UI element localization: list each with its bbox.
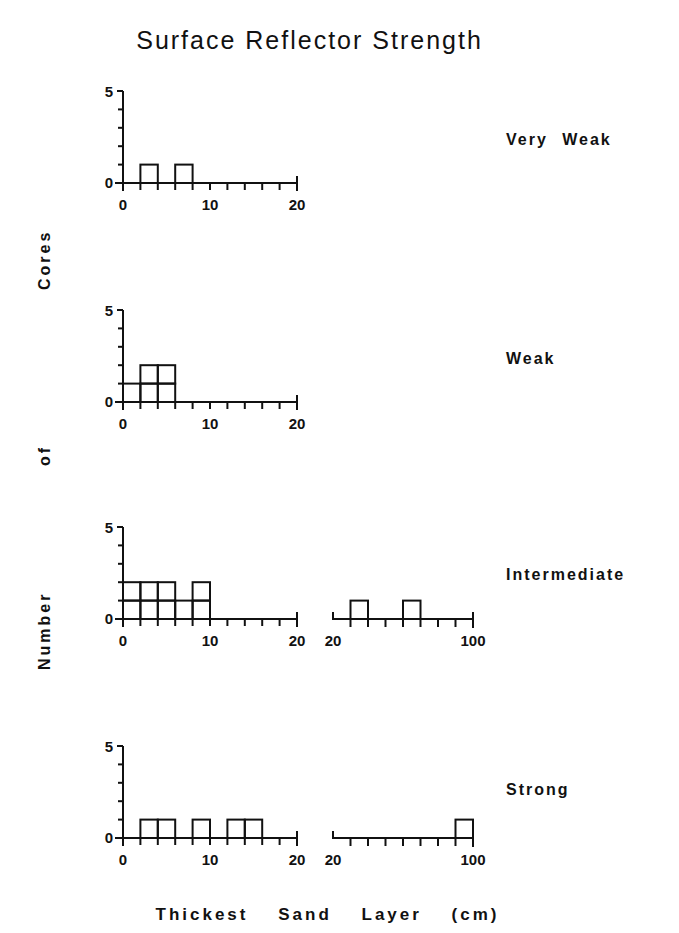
x-tick-label-0: 0 xyxy=(119,851,127,868)
histogram-bar-unit xyxy=(403,601,421,619)
y-tick-label-0: 0 xyxy=(105,393,113,410)
x-tick-label-10: 10 xyxy=(202,415,219,432)
x-tick-label-10: 10 xyxy=(202,851,219,868)
x-tick-label-20: 20 xyxy=(289,851,306,868)
x-tick-label-0: 0 xyxy=(119,415,127,432)
histogram-bar-unit xyxy=(140,365,157,383)
y-tick-label-5: 5 xyxy=(105,519,113,536)
histogram-bar-unit xyxy=(456,820,474,838)
y-tick-label-5: 5 xyxy=(105,302,113,319)
y-tick-label-5: 5 xyxy=(105,83,113,100)
x-tick-label-0: 0 xyxy=(119,196,127,213)
histogram-bar-unit xyxy=(175,601,192,619)
y-tick-label-0: 0 xyxy=(105,829,113,846)
histogram-bar-unit xyxy=(193,820,210,838)
histogram-bar-unit xyxy=(140,601,157,619)
histogram-bar-unit xyxy=(123,582,140,600)
histogram-bar-unit xyxy=(351,601,369,619)
x-tick-label-100: 100 xyxy=(460,632,485,649)
histogram-bar-unit xyxy=(193,582,210,600)
x-tick-label-0: 0 xyxy=(119,632,127,649)
x-tick-label-100: 100 xyxy=(460,851,485,868)
histogram-bar-unit xyxy=(193,601,210,619)
x-tick-label-20: 20 xyxy=(325,851,342,868)
histogram-bar-unit xyxy=(158,820,175,838)
histogram-bar-unit xyxy=(140,582,157,600)
histogram-bar-unit xyxy=(123,384,140,402)
y-tick-label-5: 5 xyxy=(105,738,113,755)
histogram-bar-unit xyxy=(140,165,157,183)
x-tick-label-20: 20 xyxy=(289,196,306,213)
histogram-bar-unit xyxy=(158,582,175,600)
histogram-bar-unit xyxy=(123,601,140,619)
x-tick-label-20: 20 xyxy=(325,632,342,649)
histogram-bar-unit xyxy=(245,820,262,838)
histogram-bar-unit xyxy=(158,601,175,619)
x-tick-label-20: 20 xyxy=(289,415,306,432)
histogram-figure: 50010205001020500102020100500102020100 xyxy=(0,0,679,933)
histogram-bar-unit xyxy=(140,820,157,838)
x-tick-label-10: 10 xyxy=(202,632,219,649)
x-tick-label-10: 10 xyxy=(202,196,219,213)
histogram-bar-unit xyxy=(227,820,244,838)
y-tick-label-0: 0 xyxy=(105,174,113,191)
histogram-bar-unit xyxy=(158,384,175,402)
histogram-bar-unit xyxy=(175,165,192,183)
histogram-bar-unit xyxy=(140,384,157,402)
x-tick-label-20: 20 xyxy=(289,632,306,649)
y-tick-label-0: 0 xyxy=(105,610,113,627)
histogram-bar-unit xyxy=(158,365,175,383)
